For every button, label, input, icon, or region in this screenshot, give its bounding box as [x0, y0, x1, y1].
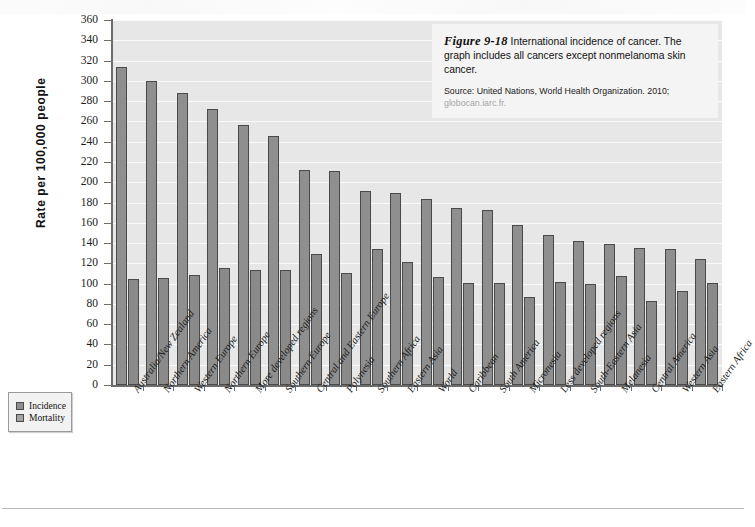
- legend-swatch-incidence-icon: [16, 402, 24, 410]
- y-tick-label-120: 120: [64, 256, 98, 268]
- y-tick-mark-340: [104, 40, 112, 41]
- legend-item-incidence: Incidence: [16, 401, 65, 411]
- y-tick-mark-120: [104, 263, 112, 264]
- x-axis-category-labels: Australia/New ZealandNorthern AmericaWes…: [0, 388, 746, 523]
- figure-caption-box: Figure 9-18 International incidence of c…: [432, 24, 718, 118]
- bar-mortality-14: [555, 282, 566, 385]
- bar-incidence-1: [146, 81, 157, 385]
- bar-mortality-12: [494, 283, 505, 385]
- y-tick-label-240: 240: [64, 135, 98, 147]
- y-tick-mark-160: [104, 223, 112, 224]
- y-tick-label-60: 60: [64, 317, 98, 329]
- y-tick-label-260: 260: [64, 114, 98, 126]
- bar-mortality-9: [402, 262, 413, 385]
- bar-incidence-2: [177, 93, 188, 385]
- bar-mortality-7: [341, 273, 352, 385]
- legend-label-incidence: Incidence: [29, 401, 66, 411]
- bar-mortality-1: [158, 278, 169, 385]
- y-tick-label-220: 220: [64, 155, 98, 167]
- y-tick-label-320: 320: [64, 54, 98, 66]
- page-bottom-rule: [2, 508, 744, 509]
- bar-mortality-17: [646, 301, 657, 385]
- scan-artifact: [0, 0, 746, 14]
- bar-incidence-4: [238, 125, 249, 385]
- legend-swatch-mortality-icon: [16, 414, 24, 422]
- bar-mortality-19: [707, 283, 718, 385]
- y-tick-mark-240: [104, 142, 112, 143]
- y-tick-label-200: 200: [64, 175, 98, 187]
- bar-incidence-5: [268, 136, 279, 385]
- y-tick-label-40: 40: [64, 337, 98, 349]
- y-tick-mark-280: [104, 101, 112, 102]
- y-tick-label-360: 360: [64, 13, 98, 25]
- y-tick-mark-80: [104, 304, 112, 305]
- y-tick-mark-360: [104, 20, 112, 21]
- legend-label-mortality: Mortality: [29, 413, 65, 423]
- figure-number: Figure 9-18: [444, 34, 508, 48]
- y-tick-mark-20: [104, 365, 112, 366]
- y-tick-label-340: 340: [64, 33, 98, 45]
- chart-legend: Incidence Mortality: [8, 392, 72, 432]
- bar-mortality-10: [433, 277, 444, 385]
- y-tick-mark-200: [104, 182, 112, 183]
- y-tick-mark-220: [104, 162, 112, 163]
- y-tick-mark-60: [104, 324, 112, 325]
- bar-incidence-0: [116, 67, 127, 385]
- y-tick-label-100: 100: [64, 277, 98, 289]
- y-tick-label-300: 300: [64, 74, 98, 86]
- y-tick-label-160: 160: [64, 216, 98, 228]
- y-tick-mark-180: [104, 203, 112, 204]
- bar-mortality-0: [128, 279, 139, 385]
- y-axis-title: Rate per 100,000 people: [34, 77, 48, 228]
- bar-incidence-3: [207, 109, 218, 385]
- bar-mortality-11: [463, 283, 474, 385]
- legend-item-mortality: Mortality: [16, 413, 65, 423]
- y-tick-mark-100: [104, 284, 112, 285]
- bar-incidence-11: [451, 208, 462, 385]
- y-tick-label-140: 140: [64, 236, 98, 248]
- y-tick-mark-320: [104, 61, 112, 62]
- figure-source: Source: United Nations, World Health Org…: [444, 85, 706, 109]
- bar-mortality-2: [189, 275, 200, 386]
- figure-source-url: globocan.iarc.fr.: [444, 98, 506, 108]
- y-tick-mark-260: [104, 121, 112, 122]
- bar-mortality-5: [280, 270, 291, 385]
- y-tick-label-20: 20: [64, 358, 98, 370]
- y-tick-label-80: 80: [64, 297, 98, 309]
- y-tick-mark-140: [104, 243, 112, 244]
- y-tick-mark-40: [104, 344, 112, 345]
- bar-mortality-4: [250, 270, 261, 385]
- figure-caption-text: Figure 9-18 International incidence of c…: [444, 34, 706, 77]
- y-tick-label-180: 180: [64, 196, 98, 208]
- bar-mortality-16: [616, 276, 627, 386]
- bar-mortality-3: [219, 268, 230, 385]
- y-tick-label-280: 280: [64, 94, 98, 106]
- figure-source-text: Source: United Nations, World Health Org…: [444, 86, 669, 96]
- y-tick-mark-300: [104, 81, 112, 82]
